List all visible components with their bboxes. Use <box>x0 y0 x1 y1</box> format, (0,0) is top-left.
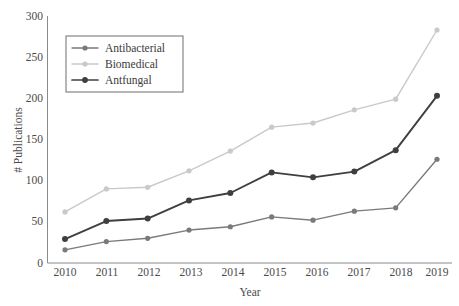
data-point <box>310 120 315 125</box>
x-tick-label: 2019 <box>426 266 449 278</box>
data-point <box>269 214 274 219</box>
data-point <box>351 169 357 175</box>
x-tick-label: 2014 <box>222 266 245 278</box>
data-point <box>434 93 440 99</box>
x-tick-label: 2016 <box>306 266 329 278</box>
chart-legend: Antibacterial Biomedical Antfungal <box>66 36 183 92</box>
x-tick-label: 2012 <box>138 266 161 278</box>
data-point <box>104 186 109 191</box>
data-point <box>434 27 439 32</box>
data-point <box>104 239 109 244</box>
data-point <box>186 197 192 203</box>
data-point <box>145 236 150 241</box>
data-point <box>227 190 233 196</box>
data-point <box>186 168 191 173</box>
x-tick-label: 2017 <box>348 266 371 278</box>
data-point <box>393 97 398 102</box>
data-point <box>103 218 109 224</box>
x-axis-title: Year <box>239 286 260 298</box>
data-point <box>352 107 357 112</box>
y-tick-label: 250 <box>26 51 44 63</box>
legend-swatch-marker <box>82 77 88 83</box>
data-point <box>228 224 233 229</box>
legend-swatch-marker <box>82 61 87 66</box>
x-tick-label: 2013 <box>180 266 203 278</box>
legend-label: Antfungal <box>105 74 152 87</box>
data-point <box>269 125 274 130</box>
data-point <box>393 205 398 210</box>
publications-line-chart: 300 250 200 150 100 50 0 # Publications … <box>0 0 459 306</box>
x-tick-label: 2011 <box>96 266 119 278</box>
y-tick-label: 100 <box>26 174 44 186</box>
data-point <box>310 174 316 180</box>
x-tick-label: 2018 <box>390 266 413 278</box>
legend-label: Antibacterial <box>105 42 165 54</box>
data-point <box>62 209 67 214</box>
y-axis-title: # Publications <box>12 107 24 173</box>
legend-swatch-marker <box>82 45 87 50</box>
y-tick-label: 0 <box>37 257 43 269</box>
y-tick-label: 50 <box>32 215 44 227</box>
data-point <box>393 147 399 153</box>
data-point <box>62 236 68 242</box>
data-point <box>434 157 439 162</box>
y-tick-label: 200 <box>26 92 44 104</box>
data-point <box>352 209 357 214</box>
y-tick-label: 300 <box>26 10 44 22</box>
data-point <box>228 148 233 153</box>
data-point <box>186 227 191 232</box>
x-tick-label: 2010 <box>54 266 77 278</box>
data-point <box>145 185 150 190</box>
data-point <box>62 247 67 252</box>
x-tick-label: 2015 <box>264 266 287 278</box>
data-point <box>145 216 151 222</box>
data-point <box>310 218 315 223</box>
chart-canvas: 300 250 200 150 100 50 0 # Publications … <box>0 0 459 306</box>
legend-label: Biomedical <box>105 58 158 70</box>
data-point <box>269 169 275 175</box>
y-tick-label: 150 <box>26 133 44 145</box>
